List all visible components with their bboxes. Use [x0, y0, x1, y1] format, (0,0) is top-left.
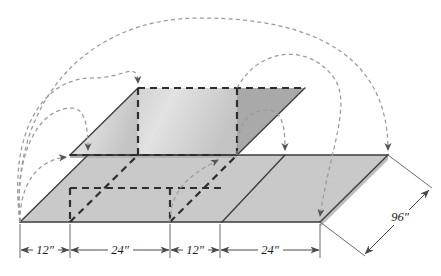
block-top-face [138, 88, 237, 155]
depth-ext-line-top [388, 155, 432, 188]
figure-canvas: 12″ 24″ 12″ 24″ 96″ [0, 0, 441, 276]
dimension-label-24in-left: 24″ [111, 243, 130, 257]
depth-ext-line-bottom [320, 222, 365, 256]
solid-body [20, 88, 388, 227]
engineering-drawing: 12″ 24″ 12″ 24″ 96″ [0, 0, 441, 276]
dimension-label-24in-right: 24″ [261, 243, 280, 257]
dimension-label-12in-right: 12″ [186, 243, 205, 257]
dimension-label-12in-left: 12″ [36, 243, 55, 257]
dimension-label-96in: 96″ [391, 210, 410, 224]
